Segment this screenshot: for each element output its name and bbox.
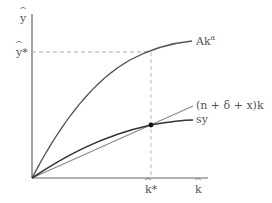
depreciation-line-label: (n + δ + x)k (196, 100, 264, 111)
steady-state-point (149, 123, 154, 128)
production-curve-label: Akα (196, 35, 215, 47)
depreciation-line (32, 106, 193, 178)
y-star-label: y* (16, 47, 28, 58)
production-curve (32, 41, 192, 178)
x-axis-label: k (195, 184, 202, 195)
k-star-label: k* (145, 184, 157, 195)
y-axis-label: y (20, 13, 26, 24)
savings-curve-label: sy (196, 114, 208, 125)
savings-curve (32, 120, 193, 178)
